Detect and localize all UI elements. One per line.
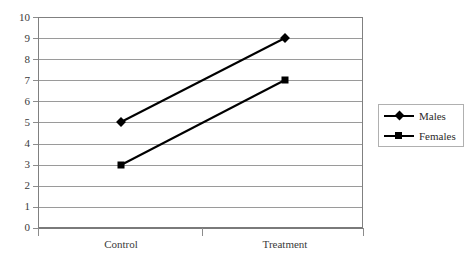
y-axis-label-2: 2 xyxy=(2,180,30,191)
y-axis-label-10: 10 xyxy=(2,12,30,23)
x-tick-right xyxy=(363,228,364,236)
x-axis-label-control: Control xyxy=(81,238,161,250)
y-axis-label-5: 5 xyxy=(2,117,30,128)
gridline-5 xyxy=(39,122,362,123)
y-axis-label-1: 1 xyxy=(2,201,30,212)
x-tick-left xyxy=(38,228,39,236)
x-axis-label-treatment: Treatment xyxy=(245,238,325,250)
y-axis-label-0: 0 xyxy=(2,222,30,233)
line-chart: 10 9 8 7 6 5 4 3 2 1 0 xyxy=(0,0,473,261)
gridline-6 xyxy=(39,101,362,102)
legend: Males Females xyxy=(378,104,464,147)
legend-label-males: Males xyxy=(419,110,446,122)
gridline-10 xyxy=(39,17,362,18)
gridline-1 xyxy=(39,207,362,208)
y-axis-label-6: 6 xyxy=(2,96,30,107)
y-axis-label-3: 3 xyxy=(2,159,30,170)
gridline-7 xyxy=(39,80,362,81)
x-axis-line xyxy=(38,228,364,229)
legend-item-females[interactable]: Females xyxy=(379,126,463,146)
y-axis-label-4: 4 xyxy=(2,138,30,149)
gridline-9 xyxy=(39,38,362,39)
y-axis-label-7: 7 xyxy=(2,75,30,86)
gridline-4 xyxy=(39,144,362,145)
y-axis-label-8: 8 xyxy=(2,54,30,65)
plot-area xyxy=(38,17,363,228)
gridline-8 xyxy=(39,59,362,60)
legend-marker-square-icon xyxy=(384,129,414,143)
legend-item-males[interactable]: Males xyxy=(379,106,463,126)
gridline-2 xyxy=(39,186,362,187)
gridline-3 xyxy=(39,165,362,166)
legend-marker-diamond-icon xyxy=(384,109,414,123)
y-axis-label-9: 9 xyxy=(2,33,30,44)
x-tick-middle xyxy=(202,228,203,236)
legend-label-females: Females xyxy=(419,130,456,142)
